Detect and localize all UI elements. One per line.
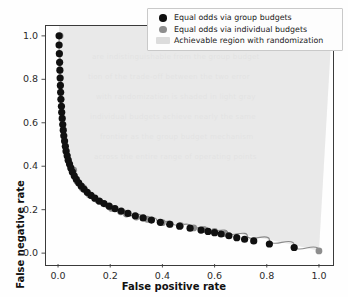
legend-patch-achievable-region — [152, 37, 174, 44]
x-tick-label: 0.4 — [142, 270, 182, 281]
legend-label-achievable-region: Achievable region with randomization — [174, 36, 323, 45]
y-tick-label: 0.8 — [8, 73, 38, 84]
x-tick-label: 0.6 — [195, 270, 235, 281]
legend-label-group-budgets: Equal odds via group budgets — [174, 13, 292, 22]
x-tick-label: 0.0 — [38, 270, 78, 281]
legend-marker-individual-budgets — [152, 26, 174, 34]
x-axis-label: False positive rate — [0, 281, 348, 292]
legend-label-individual-budgets: Equal odds via individual budgets — [174, 25, 307, 34]
legend-item-individual-budgets: Equal odds via individual budgets — [152, 24, 337, 36]
x-tick-label: 1.0 — [299, 270, 339, 281]
chart-legend: Equal odds via group budgets Equal odds … — [147, 8, 343, 51]
y-axis-label-wrap: False negative rate — [8, 85, 22, 205]
x-tick-label: 0.8 — [247, 270, 287, 281]
chart-figure: are indistinguishable from the group bud… — [0, 0, 348, 297]
legend-marker-group-budgets — [152, 14, 174, 22]
y-axis-label: False negative rate — [15, 175, 26, 295]
plot-axes-frame — [45, 25, 334, 266]
x-tick-label: 0.2 — [90, 270, 130, 281]
y-tick-label: 1.0 — [8, 30, 38, 41]
legend-item-group-budgets: Equal odds via group budgets — [152, 12, 337, 24]
legend-item-achievable-region: Achievable region with randomization — [152, 35, 337, 47]
